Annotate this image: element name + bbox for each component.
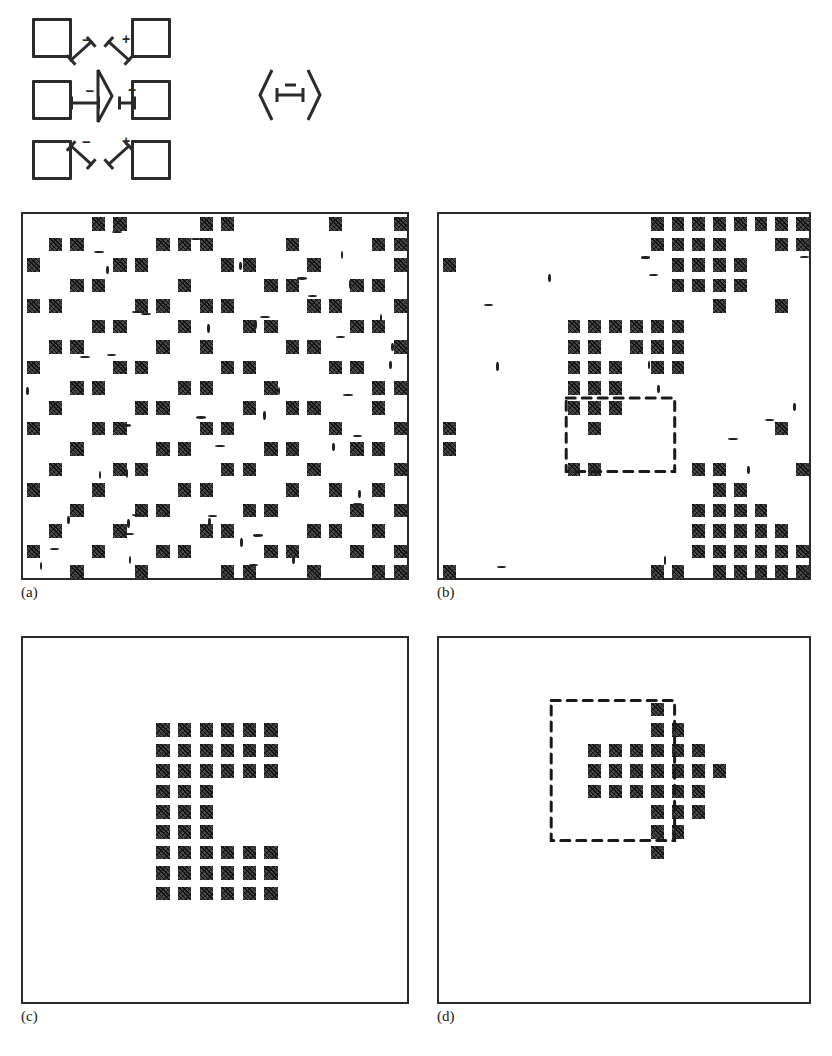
noise-mark [124,533,134,535]
dashed-contour-b [439,214,813,582]
active-cell [243,866,256,879]
active-cell [243,723,256,736]
noise-mark [254,320,257,328]
active-cell [178,785,191,798]
active-cell [200,340,213,353]
active-cell [243,565,256,578]
active-cell [307,340,320,353]
active-cell [394,565,407,578]
active-cell [221,258,234,271]
active-cell [350,442,363,455]
active-cell [178,238,191,251]
active-cell [372,442,385,455]
noise-mark [191,238,201,240]
active-cell [221,846,234,859]
connection-excitatory-mid-right [118,96,136,110]
active-cell [264,320,277,333]
active-cell [27,422,40,435]
active-cell [243,361,256,374]
figure-page: −+−+−+ (a)(b)(c)(d) [0,0,832,1056]
active-cell [156,744,169,757]
active-cell [200,422,213,435]
active-cell [70,442,83,455]
noise-mark [106,266,109,274]
active-cell [178,442,191,455]
active-cell [156,340,169,353]
connection-sign-plus-top-right: + [122,32,130,46]
active-cell [156,825,169,838]
noise-mark [80,356,90,358]
cell-grid-b [439,214,809,578]
active-cell [394,340,407,353]
active-cell [329,361,342,374]
active-cell [286,442,299,455]
active-cell [200,299,213,312]
active-cell [286,238,299,251]
active-cell [264,764,277,777]
active-cell [221,764,234,777]
active-cell [200,723,213,736]
neuron-triangle-right [308,70,320,120]
active-cell [243,401,256,414]
active-cell [178,723,191,736]
active-cell [307,401,320,414]
noise-mark [278,387,281,395]
active-cell [264,846,277,859]
active-cell [200,238,213,251]
active-cell [27,545,40,558]
schematic-square-cell-top-left [32,18,72,58]
connection-sign-minus-top-left: − [82,32,91,47]
active-cell [113,361,126,374]
active-cell [264,504,277,517]
active-cell [178,744,191,757]
active-cell [221,723,234,736]
active-cell [156,238,169,251]
active-cell [264,381,277,394]
active-cell [372,565,385,578]
active-cell [27,361,40,374]
active-cell [113,320,126,333]
noise-mark [308,295,318,297]
active-cell [135,258,148,271]
active-cell [156,846,169,859]
active-cell [113,217,126,230]
active-cell [372,238,385,251]
active-cell [135,401,148,414]
cell-grid-a [23,214,407,578]
active-cell [350,361,363,374]
panel-b [437,212,811,580]
active-cell [27,258,40,271]
active-cell [113,463,126,476]
noise-mark [332,443,335,451]
active-cell [264,744,277,757]
active-cell [92,217,105,230]
active-cell [156,545,169,558]
active-cell [221,422,234,435]
active-cell [372,381,385,394]
active-cell [70,340,83,353]
active-cell [70,381,83,394]
active-cell [350,504,363,517]
active-cell [329,299,342,312]
schematic-square-cell-mid-right [131,80,171,120]
panel-c [21,636,409,1004]
active-cell [329,422,342,435]
connection-sign-minus-mid-left: − [86,83,95,98]
noise-mark [50,548,60,550]
active-cell [264,442,277,455]
active-cell [329,483,342,496]
active-cell [156,723,169,736]
active-cell [221,463,234,476]
active-cell [264,279,277,292]
active-cell [178,320,191,333]
noise-mark [353,503,363,505]
active-cell [200,744,213,757]
active-cell [329,217,342,230]
active-cell [135,361,148,374]
active-cell [264,887,277,900]
active-cell [156,785,169,798]
noise-mark [249,564,259,566]
schematic-square-cell-bottom-left [32,140,72,180]
active-cell [200,764,213,777]
active-cell [49,524,62,537]
